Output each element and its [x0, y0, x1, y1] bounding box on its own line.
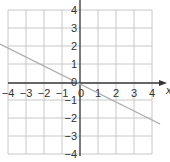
x-tick-p1: 1 [95, 87, 101, 99]
y-tick-p3: 3 [71, 22, 77, 34]
x-tick-p4: 4 [149, 87, 155, 99]
x-tick-p2: 2 [113, 87, 119, 99]
x-tick-m3: −3 [20, 87, 33, 99]
x-tick-p3: 3 [131, 87, 137, 99]
axes [8, 0, 164, 156]
y-tick-m2: −2 [64, 112, 77, 124]
x-tick-m2: −2 [38, 87, 51, 99]
y-tick-zero: 0 [71, 76, 77, 88]
y-tick-p2: 2 [71, 40, 77, 52]
x-tick-zero: 0 [78, 87, 84, 99]
y-tick-m3: −3 [64, 130, 77, 142]
x-axis-label: x [165, 84, 170, 96]
y-tick-m1: −1 [64, 94, 77, 106]
y-tick-p1: 1 [71, 58, 77, 70]
y-tick-m4: −4 [64, 148, 77, 160]
x-tick-labels: −4 −3 −2 −1 0 1 2 3 4 [2, 87, 155, 99]
x-tick-m4: −4 [2, 87, 15, 99]
y-tick-labels: 4 3 2 1 0 −1 −2 −3 −4 [64, 4, 77, 160]
coordinate-plane: x −4 −3 −2 −1 0 1 2 3 4 4 3 2 1 0 −1 −2 … [0, 0, 170, 162]
y-tick-p4: 4 [71, 4, 77, 16]
